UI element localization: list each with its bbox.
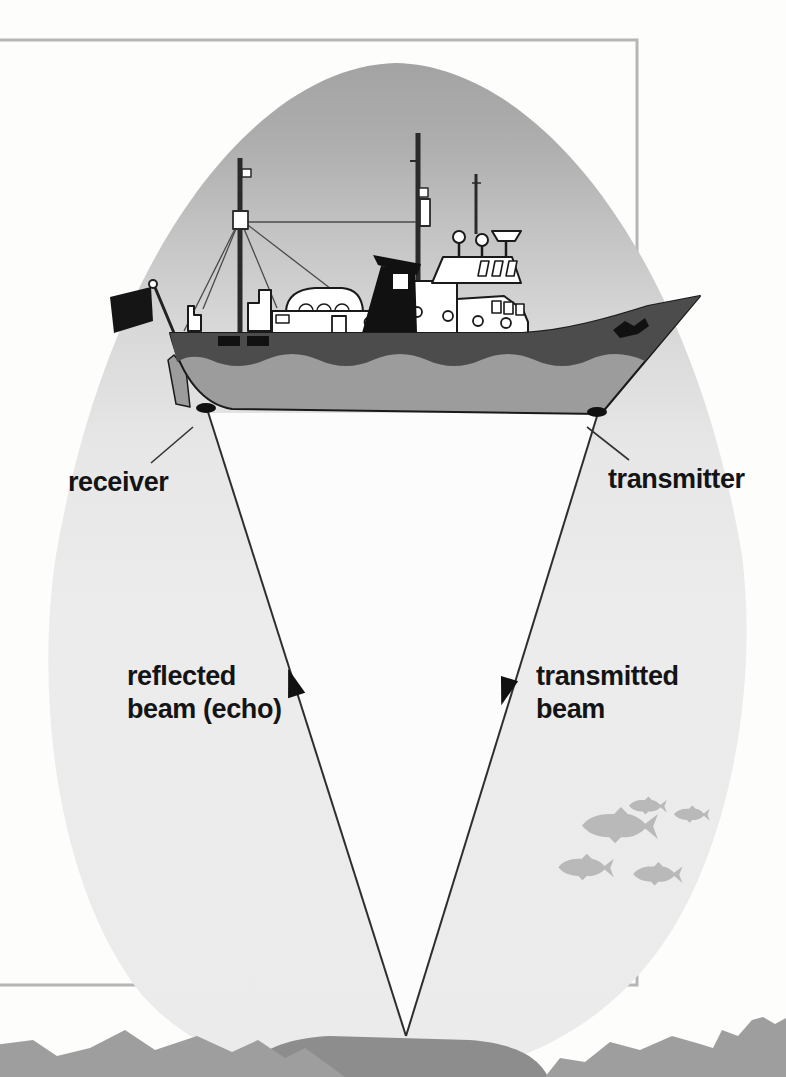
transmitted-beam-label-line2: beam xyxy=(536,693,679,726)
receiver-label: receiver xyxy=(68,466,168,499)
radar-dish-icon xyxy=(492,231,521,241)
transmitter-label: transmitter xyxy=(608,463,745,496)
lifeboat-cover xyxy=(286,288,363,311)
porthole xyxy=(501,318,511,328)
main-mast-lamp-top xyxy=(419,188,428,197)
transmitted-beam-label-line1: transmitted xyxy=(536,660,679,693)
seabed-rocks-right xyxy=(545,1017,786,1077)
flag-pole-knob xyxy=(149,280,157,288)
deckhouse-door xyxy=(332,316,346,333)
aft-mast-pennant xyxy=(242,169,251,177)
deckhouse-window xyxy=(276,315,289,323)
hull-scupper xyxy=(247,336,269,346)
cabin-window xyxy=(504,302,513,314)
reflected-beam-label-line2: beam (echo) xyxy=(127,693,282,726)
transmitter-transducer xyxy=(587,407,607,417)
cabin-window xyxy=(492,301,501,313)
main-mast-lamp xyxy=(420,199,430,226)
porthole xyxy=(443,311,453,321)
hull-scupper xyxy=(218,336,240,346)
sonar-diagram-art xyxy=(0,0,786,1077)
cabin-window xyxy=(516,304,524,315)
reflected-beam-label-line1: reflected xyxy=(127,660,282,693)
antenna-ball xyxy=(453,231,465,243)
antenna-ball xyxy=(476,234,488,246)
diagram-canvas: receiver transmitter reflected beam (ech… xyxy=(0,0,786,1077)
receiver-transducer xyxy=(196,403,216,413)
funnel-window xyxy=(393,274,408,289)
aft-mast-box xyxy=(233,211,248,229)
transmitted-beam-label: transmitted beam xyxy=(536,660,679,726)
porthole xyxy=(473,316,483,326)
reflected-beam-label: reflected beam (echo) xyxy=(127,660,282,726)
